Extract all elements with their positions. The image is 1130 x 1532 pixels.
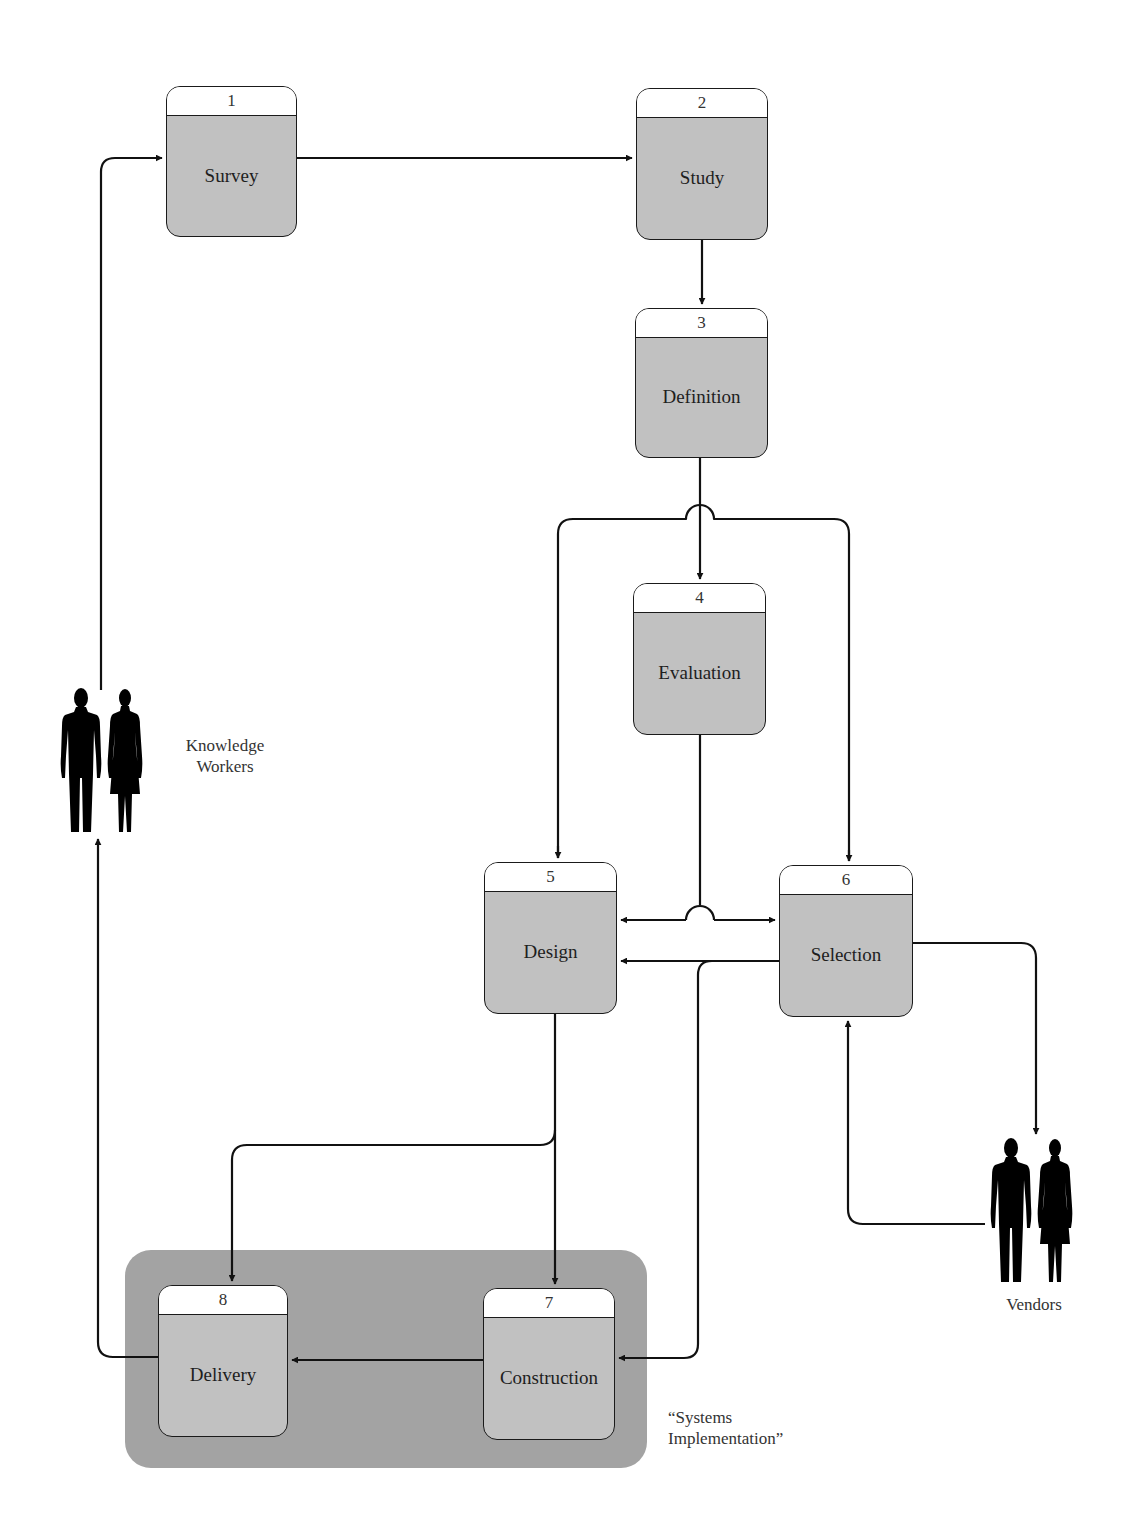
process-label: Selection: [780, 894, 912, 1016]
vendors-label: Vendors: [984, 1294, 1084, 1315]
process-number: 3: [636, 309, 767, 338]
process-label: Design: [485, 891, 616, 1013]
knowledge-workers-label: Knowledge Workers: [165, 735, 285, 777]
systems-implementation-label: “Systems Implementation”: [668, 1407, 808, 1449]
process-node-survey[interactable]: 1 Survey: [166, 86, 297, 237]
process-node-evaluation[interactable]: 4 Evaluation: [633, 583, 766, 735]
process-node-study[interactable]: 2 Study: [636, 88, 768, 240]
process-node-delivery[interactable]: 8 Delivery: [158, 1285, 288, 1437]
process-node-construction[interactable]: 7 Construction: [483, 1288, 615, 1440]
process-label: Construction: [484, 1317, 614, 1439]
process-number: 1: [167, 87, 296, 116]
process-label: Definition: [636, 337, 767, 457]
vendors-people-icon: [988, 1136, 1080, 1284]
process-node-definition[interactable]: 3 Definition: [635, 308, 768, 458]
process-node-selection[interactable]: 6 Selection: [779, 865, 913, 1017]
process-number: 4: [634, 584, 765, 613]
process-label: Evaluation: [634, 612, 765, 734]
knowledge-workers-people-icon: [58, 686, 150, 834]
process-node-design[interactable]: 5 Design: [484, 862, 617, 1014]
edge-design-to-delivery: [232, 1130, 555, 1281]
edge-vendors-to-selection: [848, 1021, 985, 1224]
edge-selection-to-construction: [619, 961, 712, 1358]
process-label: Survey: [167, 115, 296, 236]
process-diagram: 1 Survey 2 Study 3 Definition 4 Evaluati…: [0, 0, 1130, 1532]
process-number: 2: [637, 89, 767, 118]
edge-workers-to-survey: [101, 158, 162, 690]
process-number: 5: [485, 863, 616, 892]
process-label: Delivery: [159, 1314, 287, 1436]
process-label: Study: [637, 117, 767, 239]
process-number: 6: [780, 866, 912, 895]
process-number: 8: [159, 1286, 287, 1315]
edge-delivery-to-workers: [98, 839, 158, 1357]
process-number: 7: [484, 1289, 614, 1318]
edge-selection-to-vendors: [913, 943, 1036, 1134]
